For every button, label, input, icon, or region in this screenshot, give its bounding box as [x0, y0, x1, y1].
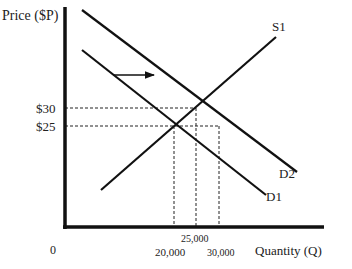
y-axis-label: Price ($P) [2, 8, 59, 24]
demand-label-d2: D2 [279, 166, 295, 181]
demand-curve-d2 [82, 10, 297, 172]
supply-curve-s1 [101, 37, 276, 190]
qty-label-25000: 25,000 [181, 233, 209, 244]
qty-label-30000: 30,000 [207, 247, 235, 258]
demand-label-d1: D1 [266, 189, 282, 204]
supply-demand-diagram: Price ($P) Quantity (Q) 0 $30 $25 20,000… [0, 0, 352, 269]
supply-label-s1: S1 [272, 19, 286, 34]
price-label-25: $25 [36, 119, 56, 134]
reference-lines [65, 108, 219, 227]
price-label-30: $30 [36, 101, 56, 116]
origin-label: 0 [50, 243, 56, 257]
qty-label-20000: 20,000 [155, 246, 186, 258]
x-axis-label: Quantity (Q) [255, 243, 322, 258]
